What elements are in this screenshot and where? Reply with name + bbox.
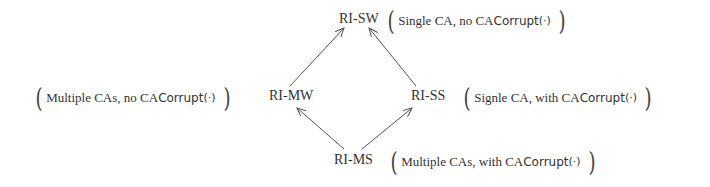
open-paren: ( [388, 11, 395, 31]
note-text: Multiple CAs, with CA [401, 154, 523, 170]
corrupt-arg: (·) [539, 13, 551, 29]
close-paren: ) [223, 88, 230, 108]
note-ri-ms: ( Multiple CAs, with CA Corrupt (·) ) [389, 152, 597, 172]
open-paren: ( [36, 88, 43, 108]
corrupt-func: Corrupt [494, 13, 539, 29]
note-text: Signle CA, with CA [474, 90, 579, 106]
corrupt-func: Corrupt [523, 154, 568, 170]
note-text: Multiple CAs, no CA [46, 90, 158, 106]
edge-mw-to-sw [290, 28, 344, 86]
note-ri-sw: ( Single CA, no CA Corrupt (·) ) [386, 11, 567, 31]
corrupt-arg: (·) [569, 154, 581, 170]
edge-ms-to-mw [297, 108, 344, 149]
node-ri-sw: RI-SW [339, 11, 379, 27]
open-paren: ( [464, 88, 471, 108]
corrupt-func: Corrupt [580, 90, 625, 106]
note-text: Single CA, no CA [398, 13, 493, 29]
corrupt-func: Corrupt [158, 90, 203, 106]
edge-ss-to-sw [369, 28, 416, 86]
close-paren: ) [645, 88, 652, 108]
close-paren: ) [588, 152, 595, 172]
close-paren: ) [558, 11, 565, 31]
note-ri-mw: ( Multiple CAs, no CA Corrupt (·) ) [34, 88, 232, 108]
node-ri-mw: RI-MW [269, 88, 313, 104]
corrupt-arg: (·) [203, 90, 215, 106]
note-ri-ss: ( Signle CA, with CA Corrupt (·) ) [462, 88, 653, 108]
corrupt-arg: (·) [625, 90, 637, 106]
node-ri-ss: RI-SS [411, 88, 445, 104]
open-paren: ( [391, 152, 398, 172]
node-ri-ms: RI-MS [334, 152, 373, 168]
edge-ms-to-ss [362, 108, 412, 149]
